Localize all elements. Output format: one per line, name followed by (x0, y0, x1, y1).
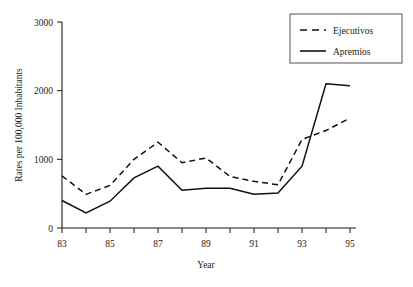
y-tick-label: 1000 (34, 155, 53, 165)
x-tick-label: 87 (153, 239, 163, 249)
chart-canvas: 0100020003000 83858789919395 Year Rates … (0, 0, 413, 287)
y-tick-label: 3000 (34, 18, 53, 28)
x-axis-ticks: 83858789919395 (57, 228, 355, 249)
chart-legend: EjecutivosApremios (290, 14, 402, 63)
legend-label-ejecutivos: Ejecutivos (333, 26, 373, 36)
legend-label-apremios: Apremios (333, 47, 371, 57)
series-line-ejecutivos (62, 118, 350, 194)
line-chart: 0100020003000 83858789919395 Year Rates … (0, 0, 413, 287)
x-tick-label: 83 (57, 239, 67, 249)
x-tick-label: 91 (249, 239, 259, 249)
x-tick-label: 85 (105, 239, 115, 249)
x-tick-label: 89 (201, 239, 211, 249)
y-axis-ticks: 0100020003000 (34, 18, 62, 234)
x-tick-label: 95 (345, 239, 355, 249)
series-line-apremios (62, 84, 350, 213)
y-axis-title: Rates per 100,000 Inhabitants (14, 68, 24, 182)
series-group (62, 84, 350, 213)
x-axis-title: Year (197, 260, 215, 270)
y-tick-label: 2000 (34, 86, 53, 96)
y-tick-label: 0 (48, 224, 53, 234)
x-tick-label: 93 (297, 239, 307, 249)
